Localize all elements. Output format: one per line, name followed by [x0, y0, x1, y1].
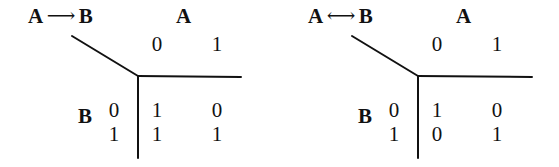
diagonal-divider-line [352, 36, 418, 76]
truth-table-implication: A⟶B A B 0 1 0 1 1 0 1 1 [0, 0, 279, 167]
table-axis-rules [0, 0, 279, 167]
figure-canvas: A⟶B A B 0 1 0 1 1 0 1 1 A⟷B A B 0 1 0 1 … [0, 0, 559, 167]
horizontal-rule [418, 76, 532, 77]
horizontal-rule [138, 76, 241, 77]
table-axis-rules [280, 0, 559, 167]
truth-table-biconditional: A⟷B A B 0 1 0 1 1 0 0 1 [280, 0, 559, 167]
diagonal-divider-line [72, 36, 138, 76]
